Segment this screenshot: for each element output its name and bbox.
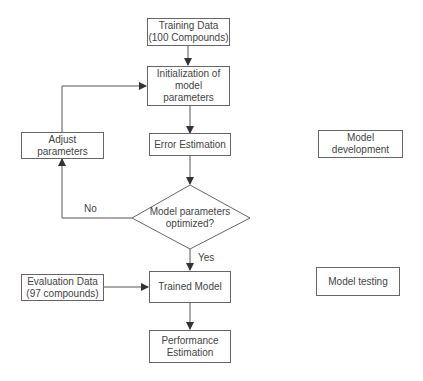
connector-lines [0, 0, 423, 381]
phase-model-development: Model development [318, 130, 403, 158]
arrow-adjust-to-init [62, 86, 146, 132]
performance-estimation-node: Performance Estimation [149, 330, 231, 363]
edge-label-no: No [84, 203, 97, 214]
error-estimation-node: Error Estimation [149, 133, 231, 156]
phase-model-testing: Model testing [316, 267, 400, 296]
decision-label: Model parameters optimized? [140, 206, 240, 230]
training-data-node: Training Data (100 Compounds) [147, 18, 230, 46]
evaluation-data-node: Evaluation Data (97 compounds) [21, 274, 104, 301]
arrow-no-to-adjust [62, 159, 132, 218]
init-params-node: Initialization of model parameters [147, 66, 230, 106]
trained-model-node: Trained Model [149, 271, 231, 303]
edge-label-yes: Yes [198, 252, 214, 263]
adjust-params-node: Adjust parameters [21, 132, 104, 159]
